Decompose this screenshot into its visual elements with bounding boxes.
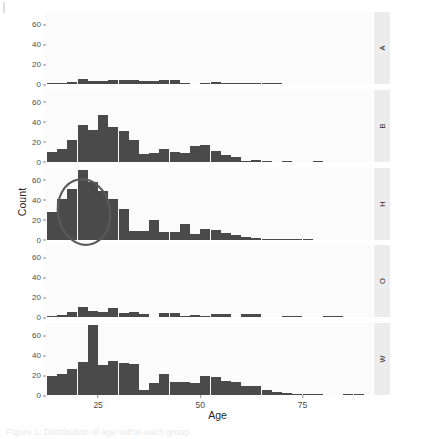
histogram-bar (98, 365, 108, 395)
histogram-bar (251, 160, 261, 162)
histogram-bar (149, 81, 159, 84)
histogram-bar (251, 386, 261, 395)
histogram-bar (170, 313, 180, 317)
histogram-bar (221, 314, 231, 317)
y-axis-tick-label: 20 (32, 137, 41, 146)
y-axis-tick-label: 20 (32, 60, 41, 69)
histogram-bar (211, 151, 221, 162)
histogram-bar (262, 161, 272, 162)
y-axis-tick-label: 40 (32, 117, 41, 126)
x-axis-tick-label: 25 (93, 395, 102, 410)
histogram-bar (57, 199, 67, 240)
facet-row: 0204060A (45, 12, 390, 84)
histogram-bar (47, 212, 57, 240)
facet-panel-grid: 0204060A0204060B0204060H0204060O0204060W (45, 12, 390, 395)
histogram-bar (211, 230, 221, 240)
y-axis-tick-label: 60 (32, 97, 41, 106)
histogram-bar (251, 83, 261, 84)
histogram-bar (170, 80, 180, 84)
histogram-bar (211, 82, 221, 84)
facet-panel-w (45, 323, 372, 395)
y-axis-tick-label: 20 (32, 293, 41, 302)
histogram-bar (180, 153, 190, 162)
histogram-bar (159, 149, 169, 162)
histogram-bar (282, 316, 292, 317)
histogram-bar (88, 182, 98, 240)
histogram-bar (190, 315, 200, 317)
histogram-bar (139, 231, 149, 240)
histogram-bar (108, 127, 118, 162)
histogram-bar (272, 239, 282, 240)
facet-strip-w: W (374, 323, 390, 395)
histogram-bar (47, 152, 57, 162)
histogram-bar (282, 161, 292, 162)
histogram-bar (139, 81, 149, 84)
histogram-bar (200, 376, 210, 395)
histogram-bar (78, 170, 88, 240)
facet-strip-b: B (374, 90, 390, 162)
facet-row: 0204060W (45, 323, 390, 395)
histogram-bar (231, 157, 241, 162)
histogram-bar (159, 374, 169, 395)
histogram-bar (88, 311, 98, 317)
x-axis-tick-label: 50 (196, 395, 205, 410)
histogram-bar (108, 80, 118, 84)
y-axis-label: Count (16, 162, 28, 242)
y-axis-tick-label: 60 (32, 331, 41, 340)
histogram-bar (221, 155, 231, 162)
histogram-bar (211, 314, 221, 317)
histogram-bar (180, 316, 190, 317)
histogram-bar (231, 382, 241, 395)
histogram-bar (98, 312, 108, 317)
facet-strip-o: O (374, 245, 390, 317)
histogram-bar (78, 362, 88, 395)
histogram-bar (282, 239, 292, 240)
histogram-bar (108, 361, 118, 395)
histogram-bar (190, 234, 200, 240)
histogram-bar (272, 83, 282, 84)
histogram-bar (251, 238, 261, 240)
y-axis-tick-label: 0 (37, 391, 41, 400)
histogram-bar (139, 314, 149, 317)
histogram-bar (67, 369, 77, 395)
histogram-bar (119, 363, 129, 395)
page-corner-mark (3, 2, 5, 13)
y-axis-tick-label: 0 (37, 80, 41, 89)
y-axis-tick-label: 20 (32, 215, 41, 224)
histogram-bar (47, 376, 57, 395)
histogram-bar (47, 316, 57, 317)
facet-row: 0204060O (45, 245, 390, 317)
histogram-bar (221, 381, 231, 395)
histogram-bar (67, 189, 77, 240)
histogram-bar (262, 83, 272, 84)
facet-panel-o (45, 245, 372, 317)
histogram-bar (129, 80, 139, 84)
histogram-bar (323, 316, 333, 317)
histogram-bar (180, 382, 190, 395)
y-axis-tick-label: 60 (32, 175, 41, 184)
histogram-bar (180, 224, 190, 240)
facet-row: 0204060B (45, 90, 390, 162)
histogram-bar (98, 191, 108, 240)
histogram-bar (119, 313, 129, 317)
histogram-bar (57, 374, 67, 395)
histogram-bar (88, 81, 98, 84)
histogram-bar (241, 161, 251, 162)
x-axis-tick-mark (302, 395, 303, 398)
histogram-bar (221, 233, 231, 240)
histogram-bar (119, 131, 129, 162)
histogram-bar (57, 149, 67, 162)
facet-row: 0204060H (45, 168, 390, 240)
histogram-bar (159, 232, 169, 240)
histogram-bar (241, 83, 251, 84)
histogram-bar (98, 115, 108, 162)
histogram-bar (241, 314, 251, 317)
facet-strip-h: H (374, 168, 390, 240)
histogram-bar (67, 82, 77, 84)
y-axis-tick-label: 0 (37, 157, 41, 166)
facet-strip-a: A (374, 12, 390, 84)
histogram-bar (221, 83, 231, 84)
histogram-bar (190, 383, 200, 395)
histogram-bar (251, 314, 261, 317)
histogram-bar (159, 80, 169, 84)
